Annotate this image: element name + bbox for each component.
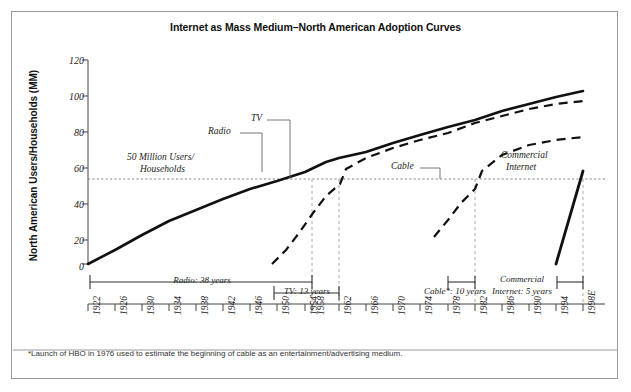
x-tick-1946: 1946	[254, 296, 264, 315]
annotation-internet-line2: Internet	[506, 162, 536, 174]
chart-canvas	[12, 12, 619, 380]
x-tick-1922: 1922	[92, 296, 102, 315]
x-tick-1930: 1930	[146, 296, 156, 315]
x-tick-1990: 1990	[533, 296, 543, 315]
x-tick-1942: 1942	[227, 296, 237, 315]
x-tick-1950: 1950	[281, 296, 291, 315]
series-line-tv	[272, 101, 583, 264]
annotation-internet-line1: Commercial	[501, 150, 548, 162]
annotation-radio: Radio	[208, 126, 231, 138]
series-line-commercial-internet	[556, 171, 583, 264]
x-tick-1982: 1982	[479, 296, 489, 315]
chart-figure: Internet as Mass Medium–North American A…	[11, 11, 618, 379]
bracket-label-internet-line1: Commercial	[488, 274, 556, 285]
bracket-label-radio: Radio: 38 years	[122, 275, 282, 286]
annotation-50m-line1: 50 Million Users/	[127, 152, 194, 164]
chart-footnote: *Launch of HBO in 1976 used to estimate …	[28, 349, 402, 358]
series-line-radio	[88, 91, 583, 264]
x-tick-1926: 1926	[119, 296, 129, 315]
x-tick-1938: 1938	[200, 296, 210, 315]
x-tick-1962: 1962	[343, 296, 353, 315]
bracket-label-tv: TV: 13 years	[257, 286, 357, 297]
x-tick-1974: 1974	[424, 296, 434, 315]
x-tick-1994: 1994	[560, 296, 570, 315]
annotation-50m-line2: Households	[140, 164, 185, 176]
x-tick-1978: 1978	[452, 296, 462, 315]
x-tick-1958: 1958	[316, 296, 326, 315]
x-tick-1934: 1934	[173, 296, 183, 315]
x-tick-1986: 1986	[506, 296, 516, 315]
x-tick-1966: 1966	[370, 296, 380, 315]
bracket-label-internet-line2: Internet: 5 years	[482, 286, 562, 297]
annotation-tv: TV	[251, 113, 262, 125]
annotation-cable: Cable	[391, 161, 414, 173]
x-tick-1998E: 1998E	[587, 290, 597, 315]
x-tick-1970: 1970	[397, 296, 407, 315]
